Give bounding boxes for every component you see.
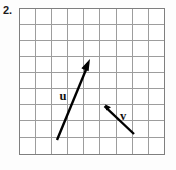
vector-figure: 2. xyxy=(0,0,176,170)
grid-and-vectors-svg: u v xyxy=(19,8,167,158)
problem-number-label: 2. xyxy=(3,4,12,16)
vector-u-label: u xyxy=(60,89,67,103)
grid-background xyxy=(19,8,165,156)
vector-v-label: v xyxy=(120,109,127,123)
